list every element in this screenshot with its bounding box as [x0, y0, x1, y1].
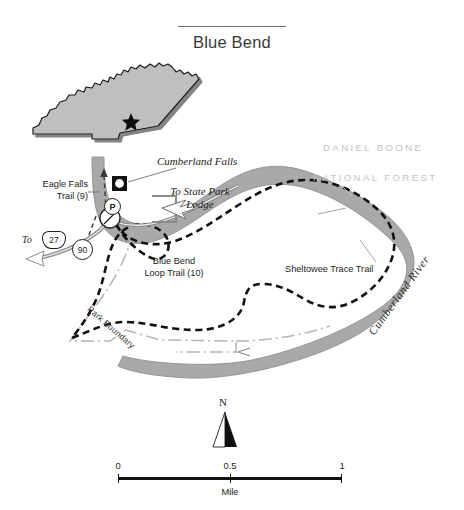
blue-bend-label-line2: Loop Trail (10): [122, 268, 226, 279]
trail-tick-leader: [318, 208, 346, 214]
cumberland-falls-leader: [128, 168, 176, 182]
to-27-prefix: To: [22, 234, 32, 245]
eagle-falls-label-line1: Eagle Falls: [8, 179, 88, 190]
north-arrow: [213, 412, 237, 447]
kentucky-inset-map: [33, 63, 199, 139]
scale-tick-mark-1: [341, 474, 342, 483]
kentucky-outline: [33, 63, 199, 139]
map-figure: Blue Bend: [0, 0, 464, 510]
north-arrow-right: [225, 412, 237, 447]
lodge-label-line1: To State Park: [154, 185, 246, 198]
north-arrow-label: N: [219, 396, 227, 408]
sheltowee-label: Sheltowee Trace Trail: [285, 264, 373, 275]
scale-tick-0: 0: [115, 460, 120, 471]
scale-tick-half: 0.5: [223, 460, 236, 471]
forest-label-line1: DANIEL BOONE: [323, 142, 423, 153]
scale-bar-graphic: [118, 474, 342, 483]
us-27-shield[interactable]: 27: [42, 231, 66, 249]
ky-90-shield[interactable]: 90: [72, 239, 93, 260]
sheltowee-leader: [360, 240, 376, 262]
forest-label-line2: NATIONAL FOREST: [313, 172, 437, 183]
scale-tick-mark-0: [118, 474, 119, 483]
scale-unit-label: Mile: [118, 486, 342, 497]
north-arrow-left: [213, 412, 225, 447]
parking-marker[interactable]: P: [104, 198, 121, 215]
eagle-falls-label-line2: Trail (9): [8, 191, 88, 202]
cumberland-falls-label: Cumberland Falls: [157, 155, 237, 168]
scale-bar: 0 0.5 1 Mile: [118, 460, 342, 497]
road-west-arrow: [26, 251, 44, 266]
map-canvas: [0, 0, 464, 510]
scale-tick-labels: 0 0.5 1: [118, 460, 342, 472]
boundary-direction-arrow: [238, 348, 250, 356]
scale-tick-1: 1: [339, 460, 344, 471]
blue-bend-label-line1: Blue Bend: [122, 256, 226, 267]
cumberland-falls-symbol: [112, 176, 127, 191]
scale-tick-mark-half: [230, 474, 231, 483]
lodge-label-line2: Lodge: [154, 198, 246, 211]
